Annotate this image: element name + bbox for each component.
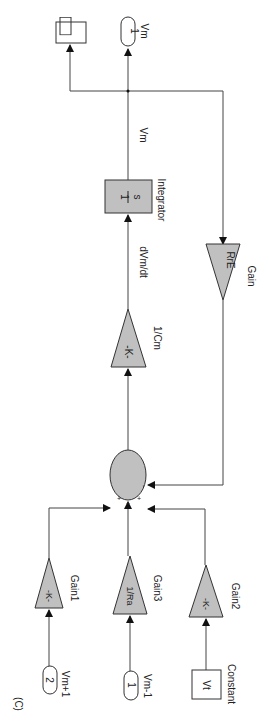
integrator-denominator: s (132, 195, 143, 200)
simulink-diagram: 1 Vm Vm 1 s Integrator dVm/dt RrE Gain -… (0, 0, 269, 728)
sum-sign-3: + (137, 495, 141, 502)
signal-label-dvmdt: dVm/dt (138, 246, 149, 278)
sum-block[interactable]: + + + - (110, 450, 149, 507)
inport-label: Vm+1 (60, 671, 71, 698)
gain-rre-block[interactable]: RrE Gain (206, 244, 257, 300)
gain-1-cm-label: 1/Cm (152, 326, 163, 350)
inport-label: Vm-1 (142, 674, 153, 698)
gain2-label: Gain2 (230, 583, 241, 610)
gain-1-cm-block[interactable]: -K- 1/Cm (111, 309, 163, 367)
gain1-value: -K- (44, 590, 54, 602)
gain-rre-value: RrE (225, 251, 236, 269)
outport-label: Vm (139, 24, 150, 39)
outport-number: 1 (129, 28, 140, 34)
gain2-block[interactable]: -K- Gain2 (189, 565, 241, 617)
gain3-value: 1/Ra (125, 586, 135, 605)
constant-vt-block[interactable]: Vt Constant (192, 664, 237, 704)
inport-vm-plus-1[interactable]: 2 Vm+1 (43, 666, 71, 698)
figure-label: (C) (13, 697, 24, 711)
sum-sign-2: + (126, 500, 130, 507)
gain1-block[interactable]: -K- Gain1 (35, 558, 80, 608)
gain3-label: Gain3 (152, 575, 163, 602)
constant-label: Constant (226, 664, 237, 704)
gain1-label: Gain1 (69, 575, 80, 602)
integrator-label: Integrator (156, 179, 167, 222)
outport-vm[interactable]: 1 Vm (121, 17, 150, 46)
inport-vm-minus-1[interactable]: 1 Vm-1 (124, 671, 153, 700)
gain-1-cm-value: -K- (123, 345, 134, 358)
inport-number: 1 (126, 682, 137, 688)
inport-number: 2 (44, 677, 55, 683)
gain-rre-label: Gain (246, 265, 257, 286)
gain2-value: -K- (201, 598, 211, 610)
constant-value: Vt (201, 680, 212, 690)
gain3-block[interactable]: 1/Ra Gain3 (113, 556, 163, 614)
sum-sign-1: + (117, 495, 121, 502)
scope-block[interactable] (56, 18, 86, 44)
sum-sign-4: - (140, 485, 149, 488)
signal-label-vm: Vm (138, 128, 149, 143)
integrator-block[interactable]: 1 s Integrator (105, 179, 167, 222)
